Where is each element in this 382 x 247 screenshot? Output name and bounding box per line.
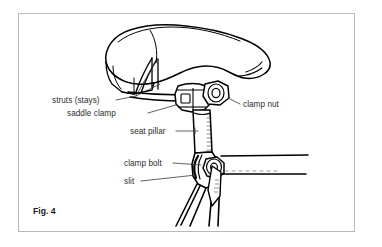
figure-page: struts (stays) saddle clamp clamp nut se… [0, 0, 382, 247]
label-clamp-nut: clamp nut [243, 100, 279, 109]
seat-pillar [193, 110, 212, 153]
label-clamp-bolt: clamp bolt [124, 159, 162, 168]
leader-saddle-clamp [148, 105, 176, 113]
leader-slit [141, 175, 196, 181]
label-struts: struts (stays) [52, 96, 100, 105]
figure-caption: Fig. 4 [33, 206, 55, 216]
label-slit: slit [124, 177, 134, 186]
leader-clamp-nut [228, 98, 240, 104]
label-saddle-clamp: saddle clamp [67, 109, 116, 118]
bicycle-saddle-illustration [0, 0, 382, 247]
label-seat-pillar: seat pillar [130, 127, 166, 136]
